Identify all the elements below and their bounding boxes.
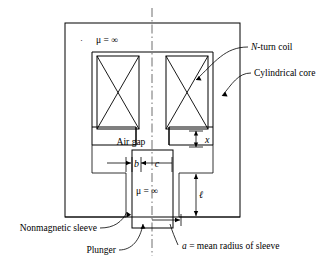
dim-c-arrow-left (141, 161, 146, 165)
mean-radius-label: a = mean radius of sleeve (182, 241, 279, 251)
plunger-label: Plunger (86, 245, 116, 255)
dim-b-label: b (134, 158, 139, 169)
mean-radius-leader (170, 224, 178, 245)
n-turn-coil-label: N-turn coil (250, 42, 293, 52)
dim-x-label: x (204, 134, 210, 145)
dim-a-arrow-right (175, 218, 180, 222)
cylindrical-core-leader (222, 73, 251, 96)
dim-l-label: ℓ (199, 189, 203, 200)
cylindrical-core-arrowhead (222, 92, 228, 97)
cylindrical-core-label: Cylindrical core (254, 68, 315, 78)
core-dot-marker: · (80, 35, 83, 45)
plunger-arrowhead (141, 224, 146, 229)
n-turn-coil-arrowhead (196, 76, 202, 81)
core-left-pole-profile (92, 52, 136, 145)
dim-l-arrow-bottom (194, 211, 198, 216)
nonmagnetic-sleeve-leader (100, 212, 127, 228)
dim-x-arrow-top (194, 131, 198, 136)
dim-c-label: c (155, 158, 160, 169)
nonmagnetic-sleeve-label: Nonmagnetic sleeve (20, 223, 97, 233)
n-turn-coil-rest: -turn coil (257, 42, 292, 52)
mean-radius-rest: = mean radius of sleeve (187, 241, 280, 251)
solenoid-cross-section-diagram: x Air gap b c ℓ · μ = ∞ μ = ∞ N-turn coi (0, 0, 334, 263)
dim-l-arrow-top (194, 174, 198, 179)
core-permeability-label: μ = ∞ (96, 35, 118, 45)
plunger-permeability-label: μ = ∞ (136, 186, 158, 196)
figure-container: x Air gap b c ℓ · μ = ∞ μ = ∞ N-turn coi (0, 0, 334, 263)
dim-b-arrow-right (126, 161, 131, 165)
air-gap-label: Air gap (117, 137, 146, 147)
